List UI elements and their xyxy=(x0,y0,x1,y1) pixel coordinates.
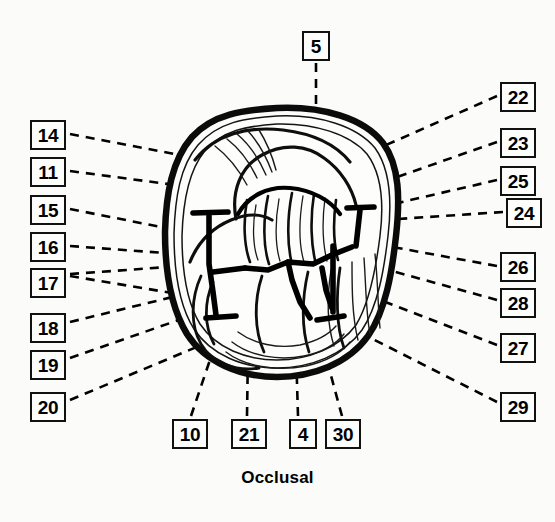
callout-box-19[interactable]: 19 xyxy=(30,350,66,380)
callout-box-23[interactable]: 23 xyxy=(500,128,536,158)
callout-box-27[interactable]: 27 xyxy=(500,333,536,363)
callout-box-17[interactable]: 17 xyxy=(30,268,66,298)
callout-box-29[interactable]: 29 xyxy=(500,392,536,422)
callout-box-5[interactable]: 5 xyxy=(302,31,330,61)
callout-box-24[interactable]: 24 xyxy=(506,198,542,228)
tooth-drawing-group xyxy=(165,108,398,377)
figure-page: 5 14 11 15 16 17 18 19 20 22 23 25 24 26… xyxy=(0,0,555,522)
callout-box-14[interactable]: 14 xyxy=(30,120,66,150)
callout-box-11[interactable]: 11 xyxy=(30,157,66,187)
leader-line-29 xyxy=(357,331,497,402)
figure-caption: Occlusal xyxy=(0,468,555,488)
callout-box-15[interactable]: 15 xyxy=(30,195,66,225)
callout-box-28[interactable]: 28 xyxy=(500,288,536,318)
callout-box-22[interactable]: 22 xyxy=(500,82,536,112)
callout-box-20[interactable]: 20 xyxy=(30,392,66,422)
callout-box-16[interactable]: 16 xyxy=(30,232,66,262)
callout-box-25[interactable]: 25 xyxy=(500,166,536,196)
callout-box-4[interactable]: 4 xyxy=(289,419,317,449)
tooth-occlusal-illustration xyxy=(0,0,555,522)
callout-box-30[interactable]: 30 xyxy=(325,419,361,449)
callout-box-21[interactable]: 21 xyxy=(231,419,267,449)
callout-box-10[interactable]: 10 xyxy=(172,419,208,449)
callout-box-26[interactable]: 26 xyxy=(500,252,536,282)
callout-box-18[interactable]: 18 xyxy=(30,313,66,343)
